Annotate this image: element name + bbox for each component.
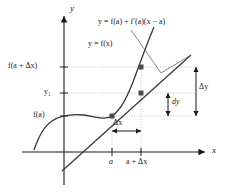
tangent-line bbox=[62, 55, 191, 171]
marker-curve-value-point bbox=[139, 65, 144, 70]
y-tick-label-f-a: f(a) bbox=[33, 111, 45, 119]
delta-y-label: Δy bbox=[199, 83, 208, 91]
function-curve-label: y = f(x) bbox=[88, 40, 113, 48]
x-axis-label: x bbox=[212, 146, 216, 155]
vertical-gridlines bbox=[112, 67, 141, 152]
marker-tangent-value-point bbox=[139, 91, 144, 96]
y-axis-label: y bbox=[70, 4, 74, 13]
delta-x-label: Δx bbox=[113, 119, 122, 127]
dy-label: dy bbox=[172, 98, 180, 106]
y-tick-label-y1: y₁ bbox=[44, 88, 51, 96]
differentials-figure: y x f(a + Δx) y₁ f(a) a a + Δx y = f(x) … bbox=[0, 0, 229, 196]
x-tick-label-a-plus-dx: a + Δx bbox=[126, 158, 147, 166]
figure-canvas bbox=[0, 0, 229, 196]
point-markers bbox=[110, 65, 144, 119]
x-tick-label-a: a bbox=[109, 158, 113, 166]
y-tick-label-f-a-plus-dx: f(a + Δx) bbox=[8, 62, 37, 70]
tangent-line-label: y = f(a) + f′(a)(x − a) bbox=[98, 18, 165, 26]
